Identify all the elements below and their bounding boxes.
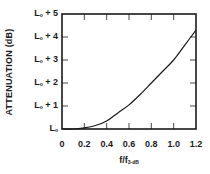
attenuation-curve (62, 30, 196, 129)
plot-frame (62, 14, 196, 129)
tick-marks (62, 14, 196, 129)
plot-area (0, 0, 210, 174)
attenuation-chart: ATTENUATION (dB) LoLo + 1Lo + 2Lo + 3Lo … (0, 0, 210, 174)
